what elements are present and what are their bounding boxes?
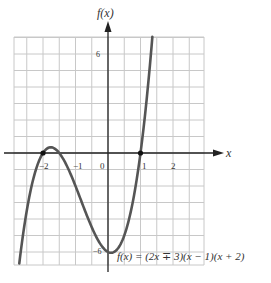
function-formula: f(x) = (2x ∓ 3)(x − 1)(x + 2) <box>117 250 245 263</box>
x-tick-2: 2 <box>171 161 176 171</box>
x-tick-0: 0 <box>100 161 105 171</box>
y-axis-arrow-icon <box>105 21 112 32</box>
y-axis-label: f(x) <box>97 6 114 20</box>
x-tick-minus1: −1 <box>73 161 83 171</box>
x-axis-arrow-icon <box>213 150 224 157</box>
y-tick-minus6: −6 <box>93 247 102 256</box>
x-axis-label: x <box>225 146 232 160</box>
root-point-1 <box>138 150 143 155</box>
y-tick-6: 6 <box>96 50 100 59</box>
function-graph: f(x) x −2 −1 0 1 2 6 −6 f(x) = (2x ∓ 3)(… <box>0 0 271 283</box>
root-point-minus2 <box>40 150 45 155</box>
x-tick-minus2: −2 <box>39 161 49 171</box>
x-tick-1: 1 <box>142 161 147 171</box>
